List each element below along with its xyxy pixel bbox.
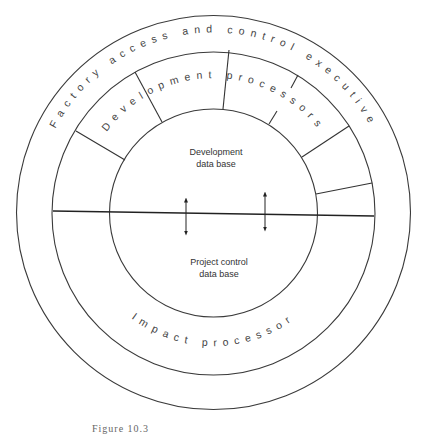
horizontal-divider — [53, 211, 374, 216]
impact-band-label-path: Impact processor — [130, 310, 297, 348]
band-divider-4b — [269, 111, 277, 124]
development-db-label-line1: Development — [189, 147, 243, 157]
band-divider-1 — [76, 131, 125, 160]
development-band-label: Development processors — [99, 68, 329, 133]
development-band-label-path: Development processors — [99, 68, 329, 133]
project-control-db-label-line1: Project control — [190, 257, 248, 267]
development-db-label-line2: data base — [196, 159, 236, 169]
band-divider-6 — [316, 183, 372, 194]
band-divider-5 — [302, 126, 349, 157]
project-control-db-label-line2: data base — [199, 269, 239, 279]
band-divider-4a — [291, 75, 298, 88]
figure-caption: Figure 10.3 — [92, 423, 149, 434]
impact-band-label: Impact processor — [130, 310, 297, 348]
